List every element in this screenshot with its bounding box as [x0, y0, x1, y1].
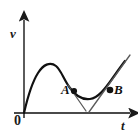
point-B-marker [107, 87, 114, 94]
point-A-marker [71, 88, 77, 94]
t-axis-label: t [121, 119, 125, 132]
point-A-label: A [61, 83, 70, 96]
origin-label: 0 [14, 114, 21, 128]
tangent-at-B-line [89, 55, 130, 112]
v-axis-label: v [10, 27, 16, 40]
point-B-label: B [114, 83, 123, 96]
velocity-time-figure: v t 0 A B [0, 0, 138, 139]
